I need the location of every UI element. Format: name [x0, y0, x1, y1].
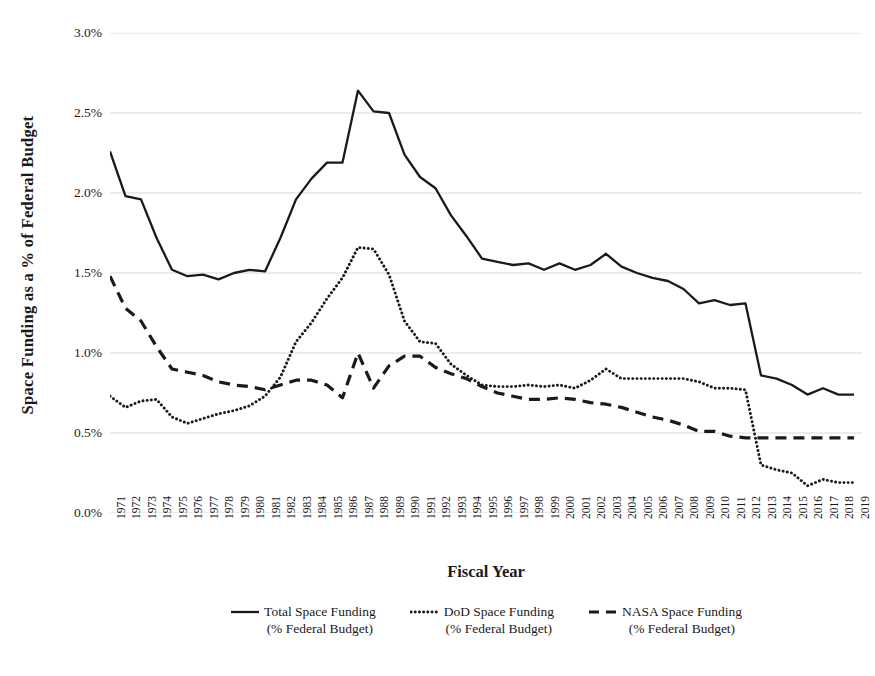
- x-tick-label: 1972: [130, 496, 142, 519]
- x-tick-label: 1983: [301, 496, 313, 519]
- x-tick-label: 2002: [595, 496, 607, 519]
- x-tick-label: 2005: [642, 496, 654, 519]
- x-tick-label: 2008: [688, 496, 700, 519]
- x-axis-title: Fiscal Year: [110, 562, 862, 582]
- x-tick-label: 2018: [843, 496, 855, 519]
- x-tick-label: 1980: [254, 496, 266, 519]
- x-tick-label: 1987: [363, 496, 375, 519]
- x-tick-label: 1981: [270, 496, 282, 519]
- legend-swatch-solid-icon: [230, 603, 260, 621]
- y-tick-label: 1.0%: [74, 345, 102, 361]
- x-tick-label: 2016: [812, 496, 824, 519]
- y-tick-label: 1.5%: [74, 265, 102, 281]
- y-axis-tick-labels: 0.0%0.5%1.0%1.5%2.0%2.5%3.0%: [52, 0, 108, 676]
- legend-item[interactable]: Total Space Funding(% Federal Budget): [230, 603, 376, 637]
- legend-item[interactable]: NASA Space Funding(% Federal Budget): [588, 603, 742, 637]
- x-tick-label: 1991: [425, 496, 437, 519]
- x-tick-label: 2007: [673, 496, 685, 519]
- legend-label: DoD Space Funding(% Federal Budget): [444, 603, 554, 637]
- x-tick-label: 1976: [192, 496, 204, 519]
- legend-label-line2: (% Federal Budget): [444, 620, 554, 637]
- x-tick-label: 1999: [549, 496, 561, 519]
- legend-label-line1: Total Space Funding: [264, 604, 376, 619]
- x-tick-label: 1989: [394, 496, 406, 519]
- x-tick-label: 1973: [146, 496, 158, 519]
- legend-label: Total Space Funding(% Federal Budget): [264, 603, 376, 637]
- series-line-1: [110, 91, 854, 395]
- x-tick-label: 2017: [828, 496, 840, 519]
- x-tick-label: 1977: [208, 496, 220, 519]
- x-tick-label: 2003: [611, 496, 623, 519]
- legend-swatch-dashed-icon: [588, 603, 618, 621]
- legend-label-line2: (% Federal Budget): [622, 620, 742, 637]
- x-tick-label: 1982: [285, 496, 297, 519]
- x-tick-label: 1988: [378, 496, 390, 519]
- x-tick-label: 1993: [456, 496, 468, 519]
- y-tick-label: 3.0%: [74, 25, 102, 41]
- x-tick-label: 2004: [626, 496, 638, 519]
- x-tick-label: 1995: [487, 496, 499, 519]
- x-tick-label: 1974: [161, 496, 173, 519]
- x-tick-label: 1986: [347, 496, 359, 519]
- plot-svg: [110, 33, 862, 513]
- x-tick-label: 2000: [564, 496, 576, 519]
- x-tick-label: 1998: [533, 496, 545, 519]
- x-tick-label: 1997: [518, 496, 530, 519]
- x-tick-label: 2019: [859, 496, 871, 519]
- x-tick-label: 1985: [332, 496, 344, 519]
- x-tick-label: 1971: [115, 496, 127, 519]
- x-tick-label: 1994: [471, 496, 483, 519]
- x-tick-label: 1975: [177, 496, 189, 519]
- x-tick-label: 2011: [735, 496, 747, 519]
- x-tick-label: 2001: [580, 496, 592, 519]
- legend-item[interactable]: DoD Space Funding(% Federal Budget): [410, 603, 554, 637]
- legend-swatch-dotted-icon: [410, 603, 440, 621]
- x-tick-label: 1979: [239, 496, 251, 519]
- x-tick-label: 2014: [781, 496, 793, 519]
- y-tick-label: 2.0%: [74, 185, 102, 201]
- y-axis-title: Space Funding as a % of Federal Budget: [0, 0, 56, 530]
- legend-label-line2: (% Federal Budget): [264, 620, 376, 637]
- y-axis-title-text: Space Funding as a % of Federal Budget: [18, 116, 38, 415]
- chart-figure: Space Funding as a % of Federal Budget 0…: [0, 0, 875, 676]
- x-tick-label: 2010: [719, 496, 731, 519]
- chart-legend: Total Space Funding(% Federal Budget)DoD…: [110, 603, 862, 637]
- x-tick-label: 2009: [704, 496, 716, 519]
- y-tick-label: 0.0%: [74, 505, 102, 521]
- y-tick-label: 0.5%: [74, 425, 102, 441]
- legend-label: NASA Space Funding(% Federal Budget): [622, 603, 742, 637]
- x-tick-label: 2012: [750, 496, 762, 519]
- x-tick-label: 1996: [502, 496, 514, 519]
- legend-label-line1: DoD Space Funding: [444, 604, 554, 619]
- y-tick-label: 2.5%: [74, 105, 102, 121]
- x-tick-label: 2013: [766, 496, 778, 519]
- x-tick-label: 1984: [316, 496, 328, 519]
- x-tick-label: 1992: [440, 496, 452, 519]
- plot-area: [110, 33, 862, 513]
- x-tick-label: 1990: [409, 496, 421, 519]
- x-tick-label: 1978: [223, 496, 235, 519]
- x-tick-label: 2015: [797, 496, 809, 519]
- x-tick-label: 2006: [657, 496, 669, 519]
- series-line-2: [110, 247, 854, 485]
- legend-label-line1: NASA Space Funding: [622, 604, 742, 619]
- grid-lines: [110, 33, 862, 513]
